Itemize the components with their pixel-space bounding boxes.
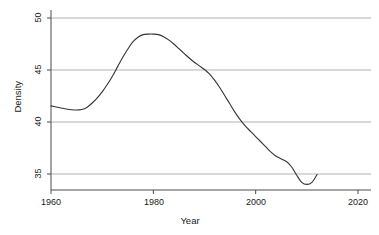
y-tick-label-50: 50 [34,9,43,27]
axis-line-group [51,10,371,190]
density-year-line-chart: 50 45 40 35 1960 1980 2000 2020 Density … [0,0,379,235]
density-series-line [51,34,317,184]
tick-mark-group [47,18,358,194]
x-axis-title: Year [160,216,220,226]
x-tick-label-1960: 1960 [33,198,69,207]
x-tick-label-1980: 1980 [136,198,172,207]
x-tick-label-2020: 2020 [340,198,376,207]
y-axis-title: Density [13,67,23,127]
y-tick-label-40: 40 [34,113,43,131]
y-tick-label-45: 45 [34,61,43,79]
y-tick-label-35: 35 [34,165,43,183]
x-tick-label-2000: 2000 [238,198,274,207]
